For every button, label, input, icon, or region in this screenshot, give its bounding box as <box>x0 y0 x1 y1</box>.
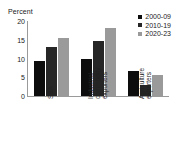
legend-label: 2020-23 <box>145 30 171 37</box>
bar-1-2000-09 <box>34 61 45 96</box>
bar-3-2020-23 <box>152 75 163 96</box>
legend-item-2020-23[interactable]: 2020-23 <box>138 30 171 37</box>
y-axis-tick-20: 20 <box>8 18 25 25</box>
legend-label: 2000-09 <box>145 13 171 20</box>
x-axis-label-line: exporters <box>145 68 152 99</box>
x-axis-label-line: exporters <box>102 68 109 99</box>
legend-item-2000-09[interactable]: 2000-09 <box>138 13 171 20</box>
bar-group <box>28 21 75 96</box>
legend-swatch-icon <box>138 32 142 36</box>
x-axis-label-3: Agricultureexporters <box>138 68 152 99</box>
x-axis-label-line: SSA <box>47 86 54 99</box>
legend-swatch-icon <box>138 23 142 27</box>
y-axis-title: Percent <box>8 8 33 15</box>
y-axis-tick-10: 10 <box>8 55 25 62</box>
legend-item-2010-19[interactable]: 2010-19 <box>138 22 171 29</box>
chart-legend: 2000-092010-192020-23 <box>138 13 171 37</box>
bar-1-2020-23 <box>58 38 69 97</box>
bar-chart: Percent 20151050 SSAIndustrial-commodity… <box>0 0 177 145</box>
x-axis-label-1: SSA <box>47 86 54 99</box>
x-axis-label-2: Industrial-commodityexporters <box>87 68 109 99</box>
legend-swatch-icon <box>138 15 142 19</box>
x-axis-label-line: Agriculture <box>138 68 145 99</box>
y-axis-tick-5: 5 <box>8 74 25 81</box>
y-axis-tick-0: 0 <box>8 93 25 100</box>
legend-label: 2010-19 <box>145 22 171 29</box>
y-axis-tick-15: 15 <box>8 36 25 43</box>
